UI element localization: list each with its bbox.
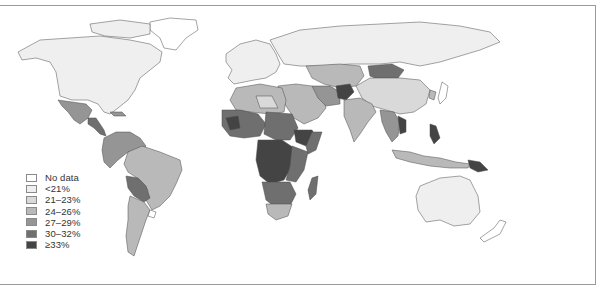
region-indonesia xyxy=(392,150,470,168)
legend-swatch xyxy=(26,196,37,204)
region-mexico xyxy=(58,100,92,124)
legend-label: ≥33% xyxy=(45,239,70,250)
legend-label: <21% xyxy=(45,183,70,194)
legend-item: ≥33% xyxy=(26,239,80,250)
region-india xyxy=(344,98,376,142)
region-australia xyxy=(416,176,480,226)
region-southeast-asia xyxy=(380,110,400,142)
region-korea xyxy=(429,90,436,100)
legend-label: 30–32% xyxy=(45,228,80,239)
region-central-america xyxy=(88,118,106,136)
region-papua-new-guinea xyxy=(468,160,488,172)
region-north-america xyxy=(18,36,162,114)
region-central-asia xyxy=(306,64,364,88)
region-madagascar xyxy=(308,176,318,200)
legend-label: 27–29% xyxy=(45,217,80,228)
legend-label: No data xyxy=(45,172,79,183)
region-japan xyxy=(438,82,448,104)
legend-item: <21% xyxy=(26,183,80,194)
legend-swatch xyxy=(26,241,37,249)
region-europe xyxy=(226,40,280,84)
legend-swatch xyxy=(26,207,37,215)
legend-item: 30–32% xyxy=(26,228,80,239)
map-legend: No data <21% 21–23% 24–26% 27–29% 30–32%… xyxy=(26,172,80,250)
legend-swatch xyxy=(26,218,37,226)
region-greenland xyxy=(150,18,198,50)
region-afghanistan xyxy=(336,84,354,100)
legend-swatch xyxy=(26,174,37,182)
region-sahel-east xyxy=(264,112,298,140)
legend-item: 24–26% xyxy=(26,206,80,217)
region-philippines xyxy=(430,124,440,144)
region-southern-cone xyxy=(126,196,150,256)
legend-item: No data xyxy=(26,172,80,183)
region-mongolia xyxy=(368,64,404,80)
legend-swatch xyxy=(26,185,37,193)
region-new-zealand xyxy=(480,220,506,242)
legend-swatch xyxy=(26,230,37,238)
region-indochina-dark xyxy=(398,116,406,134)
legend-label: 21–23% xyxy=(45,194,80,205)
region-caribbean xyxy=(110,112,126,116)
legend-label: 24–26% xyxy=(45,206,80,217)
region-russia xyxy=(270,22,500,66)
region-south-africa xyxy=(266,204,292,220)
legend-item: 21–23% xyxy=(26,194,80,205)
legend-item: 27–29% xyxy=(26,217,80,228)
region-arctic-canada xyxy=(90,20,150,38)
